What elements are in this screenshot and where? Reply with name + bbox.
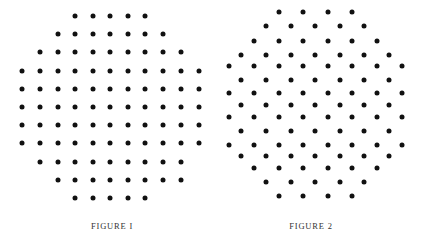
lattice-dot [362,52,367,57]
lattice-dot [288,52,293,57]
lattice-dot [301,165,306,170]
lattice-dot [239,78,244,83]
lattice-dot [239,52,244,57]
lattice-dot [387,102,392,107]
lattice-dot [251,64,256,69]
lattice-dot [325,38,330,43]
lattice-dot [288,24,293,29]
lattice-dot [374,64,379,69]
lattice-dot [325,64,330,69]
lattice-dot [264,52,269,57]
lattice-dot [374,142,379,147]
lattice-dot [288,102,293,107]
lattice-dot [276,115,281,120]
lattice-dot [374,165,379,170]
lattice-dot [288,78,293,83]
lattice-dot [301,10,306,15]
figure-2-caption: FIGURE 2 [289,221,332,231]
lattice-dot [264,180,269,185]
lattice-dot [362,24,367,29]
lattice-dot [325,115,330,120]
lattice-dot [264,153,269,158]
lattice-dot [251,90,256,95]
lattice-dot [387,153,392,158]
lattice-dot [399,64,404,69]
lattice-dot [301,142,306,147]
lattice-dot [288,128,293,133]
lattice-dot [374,90,379,95]
lattice-dot [350,64,355,69]
lattice-dot [301,64,306,69]
lattice-dot [239,128,244,133]
lattice-dot [264,128,269,133]
lattice-dot [337,102,342,107]
lattice-dot [313,128,318,133]
lattice-dot [350,115,355,120]
lattice-dot [301,38,306,43]
lattice-dot [362,180,367,185]
lattice-dot [325,10,330,15]
lattice-dot [239,102,244,107]
lattice-dot [226,90,231,95]
lattice-dot [276,194,281,199]
lattice-dot [350,165,355,170]
lattice-dot [264,102,269,107]
lattice-dot [226,115,231,120]
lattice-dot [325,90,330,95]
lattice-dot [288,153,293,158]
lattice-dot [387,78,392,83]
lattice-dot [313,24,318,29]
lattice-dot [251,142,256,147]
lattice-dot [276,38,281,43]
lattice-dot [276,165,281,170]
lattice-dot [362,128,367,133]
lattice-dot [313,180,318,185]
lattice-dot [276,142,281,147]
lattice-dot [276,90,281,95]
figure-1-caption: FIGURE I [91,221,133,231]
lattice-dot [325,194,330,199]
lattice-dot [362,78,367,83]
lattice-dot [337,78,342,83]
lattice-dot [251,115,256,120]
lattice-dot [264,24,269,29]
lattice-dot [264,78,269,83]
lattice-dot [362,153,367,158]
lattice-dot [362,102,367,107]
lattice-dot [374,115,379,120]
lattice-dot [301,115,306,120]
lattice-dot [337,52,342,57]
lattice-dot [337,180,342,185]
lattice-dot [239,153,244,158]
lattice-dot [387,128,392,133]
lattice-dot [251,38,256,43]
lattice-dot [325,165,330,170]
lattice-dot [399,115,404,120]
lattice-dot [337,24,342,29]
lattice-dot [301,90,306,95]
lattice-dot [350,90,355,95]
lattice-dot [350,142,355,147]
lattice-dot [313,153,318,158]
lattice-dot [350,10,355,15]
figure-2-triangular-lattice [0,0,425,235]
lattice-dot [337,153,342,158]
lattice-dot [350,38,355,43]
lattice-dot [374,38,379,43]
lattice-dot [399,90,404,95]
lattice-dot [226,142,231,147]
lattice-dot [313,102,318,107]
lattice-dot [301,194,306,199]
lattice-dot [313,52,318,57]
lattice-dot [313,78,318,83]
lattice-dot [276,10,281,15]
lattice-dot [337,128,342,133]
lattice-dot [226,64,231,69]
lattice-dot [288,180,293,185]
lattice-dot [399,142,404,147]
lattice-dot [387,52,392,57]
lattice-dot [251,165,256,170]
lattice-dot [276,64,281,69]
lattice-dot [350,194,355,199]
lattice-dot [325,142,330,147]
